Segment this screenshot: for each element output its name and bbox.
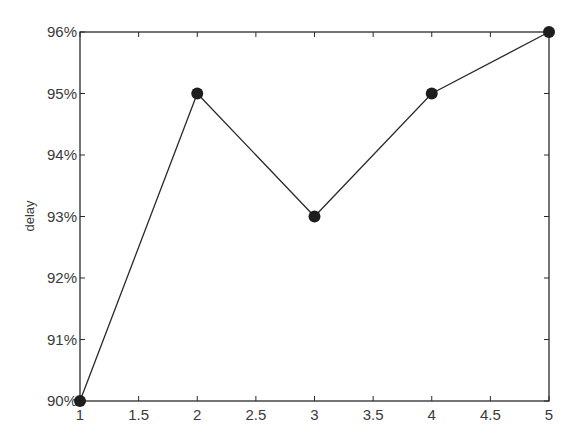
x-tick-label: 4 bbox=[428, 406, 436, 423]
y-tick-label: 90% bbox=[47, 392, 77, 409]
y-tick-label: 93% bbox=[47, 208, 77, 225]
data-point-marker bbox=[309, 211, 321, 223]
line-chart: 11.522.533.544.55 90%91%92%93%94%95%96% … bbox=[0, 0, 584, 443]
y-tick-label: 95% bbox=[47, 85, 77, 102]
x-tick-label: 3.5 bbox=[363, 406, 384, 423]
chart-background bbox=[0, 0, 584, 443]
y-tick-label: 96% bbox=[47, 23, 77, 40]
data-point-marker bbox=[543, 26, 555, 38]
x-tick-label: 5 bbox=[545, 406, 553, 423]
x-tick-label: 3 bbox=[310, 406, 318, 423]
y-tick-label: 91% bbox=[47, 331, 77, 348]
x-tick-label: 2 bbox=[193, 406, 201, 423]
x-axis-tick-labels: 11.522.533.544.55 bbox=[76, 406, 553, 423]
data-point-marker bbox=[191, 88, 203, 100]
x-tick-label: 2.5 bbox=[245, 406, 266, 423]
y-axis-title: delay bbox=[22, 200, 37, 232]
x-tick-label: 4.5 bbox=[480, 406, 501, 423]
data-point-marker bbox=[74, 395, 86, 407]
x-tick-label: 1.5 bbox=[128, 406, 149, 423]
y-tick-label: 92% bbox=[47, 269, 77, 286]
data-point-marker bbox=[426, 88, 438, 100]
y-tick-label: 94% bbox=[47, 146, 77, 163]
x-tick-label: 1 bbox=[76, 406, 84, 423]
